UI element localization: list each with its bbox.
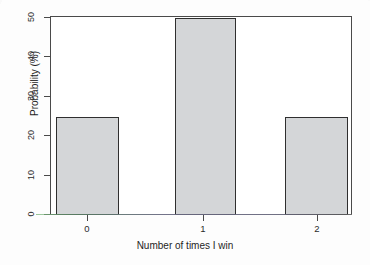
x-axis-title: Number of times I win [0, 240, 370, 251]
y-tick-mark-30 [44, 96, 50, 97]
y-tick-mark-20 [44, 135, 50, 136]
y-tick-mark-50 [44, 17, 50, 18]
x-tick-label-2: 2 [307, 223, 327, 234]
y-axis-title: Probability (%) [29, 4, 40, 164]
plot-area [50, 16, 352, 215]
bar-category-1 [175, 18, 236, 215]
y-tick-mark-10 [44, 175, 50, 176]
chart-screenshot: 50 40 30 20 10 0 0 1 2 Number of times I… [0, 0, 370, 265]
x-tick-label-1: 1 [193, 223, 213, 234]
x-tick-mark-1 [203, 215, 204, 221]
x-tick-mark-2 [317, 215, 318, 221]
x-tick-mark-0 [87, 215, 88, 221]
x-tick-label-0: 0 [77, 223, 97, 234]
y-tick-label-10: 10 [26, 166, 36, 184]
axis-baseline [36, 214, 352, 215]
y-tick-label-0: 0 [26, 205, 36, 223]
bar-category-0 [56, 117, 119, 216]
bar-category-2 [285, 117, 348, 216]
y-tick-mark-40 [44, 56, 50, 57]
